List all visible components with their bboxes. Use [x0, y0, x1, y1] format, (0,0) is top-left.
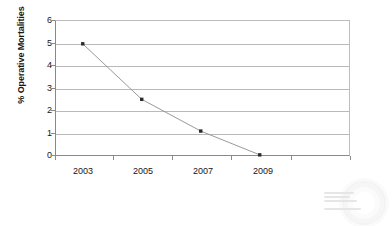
y-axis-tick-labels: 6 5 4 3 2 1 0 — [36, 20, 52, 156]
x-tick-label: 2007 — [180, 166, 226, 176]
y-axis-title: % Operative Mortalities — [16, 0, 26, 120]
data-point-marker — [81, 42, 84, 45]
x-tick-mark — [172, 156, 173, 160]
x-tick-mark — [55, 156, 56, 160]
watermark — [308, 181, 388, 223]
y-tick-label: 3 — [36, 83, 52, 93]
x-tick-mark — [291, 156, 292, 160]
x-tick-label: 2005 — [120, 166, 166, 176]
watermark-rings-icon — [342, 181, 386, 225]
series-mortality-rate — [55, 20, 350, 156]
y-tick-label: 2 — [36, 105, 52, 115]
watermark-text-line — [324, 200, 357, 202]
watermark-text-line — [324, 208, 361, 210]
y-tick-label: 4 — [36, 60, 52, 70]
y-tick-label: 0 — [36, 150, 52, 160]
data-point-marker — [140, 98, 143, 101]
chart-figure: % Operative Mortalities 6 5 4 3 2 1 0 20… — [0, 0, 392, 226]
y-tick-label: 1 — [36, 128, 52, 138]
x-tick-label: 2003 — [60, 166, 106, 176]
y-tick-label: 6 — [36, 15, 52, 25]
data-point-marker — [199, 129, 202, 132]
data-point-marker — [258, 153, 261, 156]
x-tick-mark — [113, 156, 114, 160]
series-line — [83, 44, 260, 155]
x-tick-mark — [350, 156, 351, 160]
x-tick-label: 2009 — [240, 166, 286, 176]
x-tick-mark — [231, 156, 232, 160]
watermark-text-line — [324, 192, 354, 194]
y-tick-label: 5 — [36, 38, 52, 48]
watermark-text-line — [324, 196, 350, 198]
